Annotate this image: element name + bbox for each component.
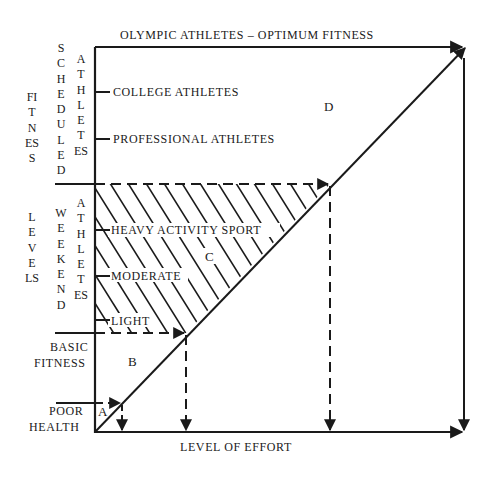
x-axis-label: LEVEL OF EFFORT bbox=[180, 441, 292, 453]
region-a-label: A bbox=[98, 405, 108, 418]
level-moderate: MODERATE bbox=[111, 270, 181, 282]
scheduled-athletes-label: ATHLETES bbox=[74, 52, 88, 159]
level-professional: PROFESSIONAL ATHLETES bbox=[113, 133, 275, 145]
level-poor-line1: POOR bbox=[49, 405, 83, 417]
top-label: OLYMPIC ATHLETES – OPTIMUM FITNESS bbox=[120, 29, 374, 41]
y-axis-label-fitness: FITNESS bbox=[25, 90, 39, 166]
scheduled-label: SCHEDULED bbox=[54, 41, 68, 179]
level-college: COLLEGE ATHLETES bbox=[113, 86, 239, 98]
level-basic-line2: FITNESS bbox=[34, 357, 86, 369]
region-c-label: C bbox=[205, 250, 214, 263]
weekend-athletes-label: ATHLETES bbox=[74, 196, 88, 303]
level-basic-line1: BASIC bbox=[50, 341, 88, 353]
level-light: LIGHT bbox=[111, 315, 150, 327]
y-axis-label-levels: LEVELS bbox=[25, 210, 39, 286]
region-b-label: B bbox=[128, 355, 137, 368]
level-poor-line2: HEALTH bbox=[29, 421, 80, 433]
diagonal-effort-line bbox=[95, 48, 465, 432]
weekend-label: WEEKEND bbox=[54, 206, 68, 313]
region-d-label: D bbox=[324, 100, 334, 113]
level-heavy: HEAVY ACTIVITY SPORT bbox=[111, 224, 261, 236]
